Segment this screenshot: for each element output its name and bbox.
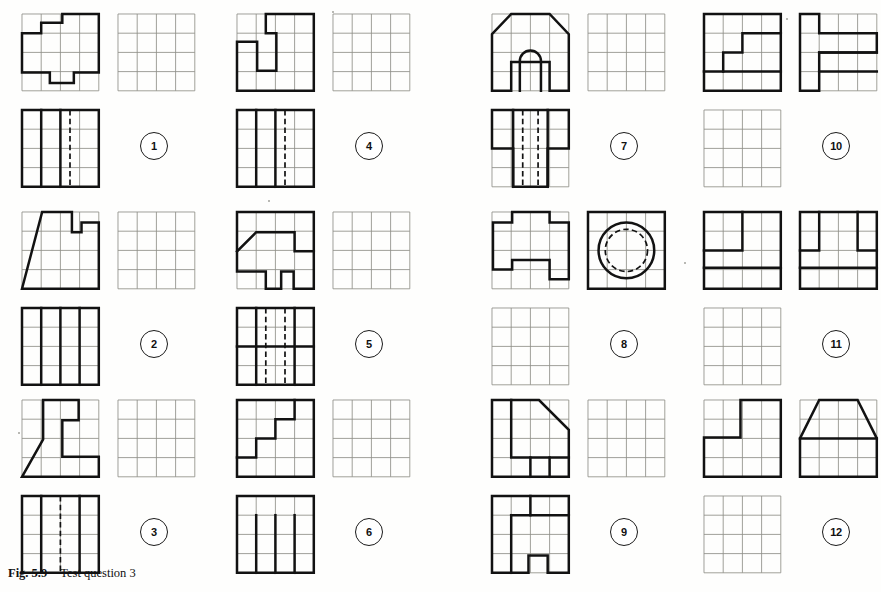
problem-number-badge: 7 xyxy=(610,132,638,160)
problem-4-front-elevation xyxy=(233,10,318,95)
problem-number-text: 1 xyxy=(151,140,157,152)
problem-number-text: 6 xyxy=(366,526,372,538)
problem-8-front-elevation xyxy=(488,208,573,293)
problem-12-end-elevation xyxy=(796,396,881,481)
problem-8-plan-blank[interactable] xyxy=(488,304,573,389)
problem-9-end-elevation-blank[interactable] xyxy=(584,396,669,481)
problem-1-front-elevation xyxy=(18,10,103,95)
problem-7-end-elevation-blank[interactable] xyxy=(584,10,669,95)
problem-number-text: 12 xyxy=(830,526,842,538)
problem-6-plan xyxy=(233,492,318,577)
paper-speck xyxy=(268,200,270,202)
problem-4-end-elevation-blank[interactable] xyxy=(329,10,414,95)
problem-number-text: 4 xyxy=(366,140,372,152)
problem-2-end-elevation-blank[interactable] xyxy=(114,208,199,293)
problem-10-plan-blank[interactable] xyxy=(700,106,785,191)
problem-5-end-elevation-blank[interactable] xyxy=(329,208,414,293)
figure-label: Fig. 5.9 xyxy=(8,566,47,580)
paper-speck xyxy=(18,432,20,434)
problem-number-badge: 8 xyxy=(610,330,638,358)
problem-11-end-elevation xyxy=(796,208,881,293)
figure-caption: Fig. 5.9Test question 3 xyxy=(8,566,136,581)
problem-2-plan xyxy=(18,304,103,389)
problem-number-text: 9 xyxy=(621,526,627,538)
problem-number-badge: 11 xyxy=(822,330,850,358)
problem-4-plan xyxy=(233,106,318,191)
problem-number-text: 3 xyxy=(151,526,157,538)
problem-10-front-elevation xyxy=(700,10,785,95)
problem-12-plan-blank[interactable] xyxy=(700,492,785,577)
problem-2-front-elevation xyxy=(18,208,103,293)
problem-number-badge: 10 xyxy=(822,132,850,160)
problem-8-end-elevation xyxy=(584,208,669,293)
problem-number-text: 5 xyxy=(366,338,372,350)
problem-7-plan xyxy=(488,106,573,191)
problem-11-front-elevation xyxy=(700,208,785,293)
problem-number-badge: 2 xyxy=(140,330,168,358)
problem-5-plan xyxy=(233,304,318,389)
problem-5-front-elevation xyxy=(233,208,318,293)
problem-10-end-elevation xyxy=(796,10,881,95)
problem-number-text: 10 xyxy=(830,140,842,152)
problem-number-text: 11 xyxy=(830,338,841,350)
figure-caption-text: Test question 3 xyxy=(60,566,136,580)
problem-1-end-elevation-blank[interactable] xyxy=(114,10,199,95)
problem-7-front-elevation xyxy=(488,10,573,95)
problem-number-badge: 5 xyxy=(355,330,383,358)
problem-number-text: 7 xyxy=(621,140,627,152)
problem-number-badge: 4 xyxy=(355,132,383,160)
problem-6-front-elevation xyxy=(233,396,318,481)
paper-speck xyxy=(684,262,686,264)
problem-3-plan xyxy=(18,492,103,577)
problem-3-front-elevation xyxy=(18,396,103,481)
problem-number-badge: 12 xyxy=(822,518,850,546)
problem-number-text: 2 xyxy=(151,338,157,350)
problem-9-plan xyxy=(488,492,573,577)
problem-12-front-elevation xyxy=(700,396,785,481)
problem-number-badge: 1 xyxy=(140,132,168,160)
problem-number-badge: 9 xyxy=(610,518,638,546)
problem-11-plan-blank[interactable] xyxy=(700,304,785,389)
problem-number-badge: 6 xyxy=(355,518,383,546)
problem-1-plan xyxy=(18,106,103,191)
problem-number-text: 8 xyxy=(621,338,627,350)
problem-number-badge: 3 xyxy=(140,518,168,546)
problem-3-end-elevation-blank[interactable] xyxy=(114,396,199,481)
problem-9-front-elevation xyxy=(488,396,573,481)
paper-speck xyxy=(786,18,788,20)
problem-6-end-elevation-blank[interactable] xyxy=(329,396,414,481)
paper-speck xyxy=(332,11,334,13)
